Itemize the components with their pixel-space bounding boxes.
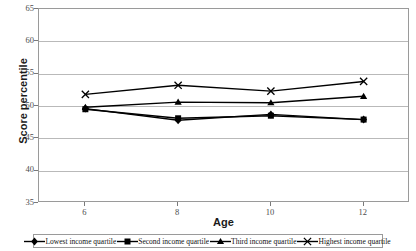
- x-axis-tick-mark: [363, 202, 364, 206]
- chart-legend: Lowest income quartileSecond income quar…: [33, 234, 383, 248]
- plot-area: [38, 8, 409, 202]
- y-axis-tick-mark: [34, 105, 38, 106]
- x-axis-tick-mark: [84, 202, 85, 206]
- x-axis-tick-mark: [270, 202, 271, 206]
- chart-container: Score percentile 35404550556065 681012 A…: [0, 0, 416, 251]
- legend-marker-diamond: [24, 236, 45, 247]
- y-axis-tick-mark: [34, 8, 38, 9]
- series-cross: [82, 78, 367, 98]
- y-axis-tick-mark: [34, 202, 38, 203]
- legend-marker-triangle: [210, 236, 231, 247]
- legend-label: Second income quartile: [138, 237, 210, 246]
- y-axis-tick-label: 60: [8, 36, 34, 45]
- y-axis-tick-mark: [34, 73, 38, 74]
- series-triangle: [82, 93, 367, 110]
- series-line: [85, 96, 363, 107]
- legend-marker-square: [117, 236, 138, 247]
- legend-entry[interactable]: Third income quartile: [210, 236, 297, 247]
- data-point-marker-square: [125, 238, 131, 244]
- y-axis-tick-label: 35: [8, 198, 34, 207]
- y-axis-tick-label: 40: [8, 165, 34, 174]
- y-axis-tick-label: 65: [8, 4, 34, 13]
- y-axis-tick-mark: [34, 40, 38, 41]
- data-point-marker-square: [268, 113, 274, 119]
- y-axis-tick-label: 55: [8, 68, 34, 77]
- legend-entry[interactable]: Second income quartile: [117, 236, 210, 247]
- clipped-header-text: [62, 0, 352, 5]
- y-axis-tick-label: 50: [8, 101, 34, 110]
- data-point-marker-diamond: [32, 237, 39, 245]
- data-point-marker-square: [175, 115, 181, 121]
- series-line: [85, 81, 363, 94]
- y-axis-tick-label: 45: [8, 133, 34, 142]
- legend-label: Lowest income quartile: [45, 237, 117, 246]
- y-axis-tick-mark: [34, 170, 38, 171]
- x-axis-title: Age: [38, 216, 409, 228]
- data-series-layer: [39, 9, 410, 203]
- legend-entry[interactable]: Highest income quartile: [297, 236, 391, 247]
- series-square: [82, 106, 366, 122]
- legend-marker-cross: [297, 236, 318, 247]
- y-axis-tick-mark: [34, 137, 38, 138]
- data-point-marker-square: [361, 117, 367, 123]
- legend-entry[interactable]: Lowest income quartile: [24, 236, 117, 247]
- legend-label: Third income quartile: [231, 237, 297, 246]
- legend-label: Highest income quartile: [318, 237, 391, 246]
- x-axis-tick-mark: [177, 202, 178, 206]
- series-diamond: [82, 105, 367, 125]
